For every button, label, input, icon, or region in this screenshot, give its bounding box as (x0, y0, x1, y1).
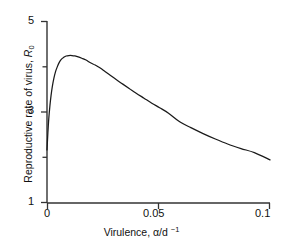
figure-container: 5 3 1 0 0.05 0.1 Virulence, α/d −1 Repro… (0, 0, 283, 246)
y-axis-title: Reproductive rate of virus, R0 (22, 14, 38, 214)
x-axis-title: Virulence, α/d −1 (0, 224, 283, 238)
x-axis-tick-label-0: 0 (44, 208, 50, 219)
data-series-line (47, 55, 270, 159)
x-axis-tick-label-0.1: 0.1 (255, 208, 270, 219)
chart-plot-area (0, 0, 283, 246)
x-axis-tick-label-0.05: 0.05 (143, 208, 164, 219)
y-axis-title-subscript: 0 (27, 45, 36, 49)
y-axis-title-symbol: R (22, 50, 34, 58)
x-axis-title-exponent: −1 (171, 225, 180, 234)
